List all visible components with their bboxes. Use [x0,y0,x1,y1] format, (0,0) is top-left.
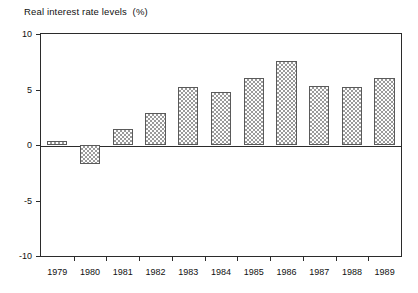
x-axis-label: 1979 [47,267,67,277]
bar-1988 [342,87,362,145]
y-axis-tick [36,90,41,91]
x-axis-tick [237,256,238,261]
y-axis-tick [36,201,41,202]
x-axis-tick [74,256,75,261]
x-axis-tick [336,256,337,261]
chart-title: Real interest rate levels (%) [24,6,148,17]
y-axis-label: -10 [19,251,32,261]
y-axis-tick [36,256,41,257]
bar-1989 [374,78,394,145]
x-axis-tick [303,256,304,261]
chart-container: Real interest rate levels (%) 1050-5-10 … [0,0,418,293]
y-axis-label: 5 [27,85,32,95]
x-axis-tick [172,256,173,261]
x-axis-tick [368,256,369,261]
x-axis-label: 1989 [375,267,395,277]
y-axis-tick [36,145,41,146]
x-axis-tick [106,256,107,261]
y-axis-label: -5 [24,196,32,206]
x-axis-label: 1987 [309,267,329,277]
x-axis-label: 1980 [80,267,100,277]
bar-1980 [80,145,100,164]
x-axis-tick [139,256,140,261]
x-axis-label: 1988 [342,267,362,277]
bar-1979 [47,141,67,145]
x-axis-tick [270,256,271,261]
bar-1984 [211,92,231,145]
bar-1982 [145,113,165,145]
y-axis-tick [36,34,41,35]
bar-1985 [244,78,264,145]
x-axis-label: 1986 [276,267,296,277]
bar-1987 [309,86,329,145]
y-axis-label: 0 [27,140,32,150]
x-axis-label: 1981 [113,267,133,277]
bar-1986 [276,61,296,145]
x-axis-label: 1984 [211,267,231,277]
x-axis-label: 1982 [146,267,166,277]
bar-1983 [178,87,198,145]
x-axis-tick [205,256,206,261]
y-axis-label: 10 [22,29,32,39]
x-axis-label: 1983 [178,267,198,277]
bar-1981 [113,129,133,145]
x-axis-label: 1985 [244,267,264,277]
plot-area: 1050-5-10 197919801981198219831984198519… [40,33,402,257]
